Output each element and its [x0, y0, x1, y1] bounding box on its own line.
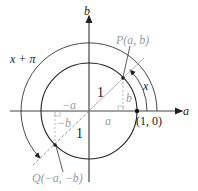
leg-b-label: b — [126, 92, 132, 104]
arc-x-plus-pi-label: x + π — [10, 53, 35, 65]
point-q-label: Q(−a, −b) — [32, 172, 83, 184]
radius-q-label: 1 — [76, 128, 83, 140]
leader-q — [56, 146, 63, 172]
right-angle-p — [118, 106, 123, 111]
radius-p-label: 1 — [97, 87, 104, 99]
point-unit-label: (1, 0) — [136, 115, 162, 127]
b-axis-label: b — [84, 5, 90, 17]
point-p-label: P(a, b) — [116, 34, 149, 46]
unit-circle-diagram: a b P(a, b) Q(−a, −b) (1, 0) x x + π 1 1… — [0, 0, 198, 191]
leg-neg-a-label: −a — [62, 99, 76, 111]
leg-a-label: a — [105, 115, 111, 127]
point-unit-dot — [135, 109, 139, 113]
leg-neg-b-label: −b — [57, 117, 71, 129]
a-axis-label: a — [183, 105, 189, 117]
arc-x-label: x — [143, 80, 148, 92]
